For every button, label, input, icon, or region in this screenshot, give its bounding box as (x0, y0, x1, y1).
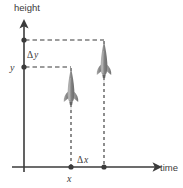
delta-x-variable: x (83, 155, 89, 165)
y-value-label: y (9, 62, 15, 73)
x-value-label: x (66, 173, 72, 184)
x-axis-title: time (160, 162, 178, 173)
delta-x-label: Δx (77, 155, 89, 165)
y-axis-dot-lower (21, 64, 26, 69)
rocket-icon-right (97, 41, 112, 88)
rocket-height-time-diagram: height time y x Δy Δx (0, 0, 183, 188)
delta-y-label: Δy (27, 50, 39, 60)
diagram-canvas: height time y x Δy Δx (0, 0, 183, 188)
delta-y-variable: y (33, 50, 39, 60)
y-axis-dot-upper (21, 37, 26, 42)
delta-y-symbol: Δ (27, 50, 33, 60)
y-axis-title: height (14, 2, 40, 13)
delta-x-symbol: Δ (77, 155, 83, 165)
rocket-icon-left (64, 68, 79, 115)
x-axis-dot-right (101, 164, 106, 169)
x-axis-dot-left (68, 164, 73, 169)
